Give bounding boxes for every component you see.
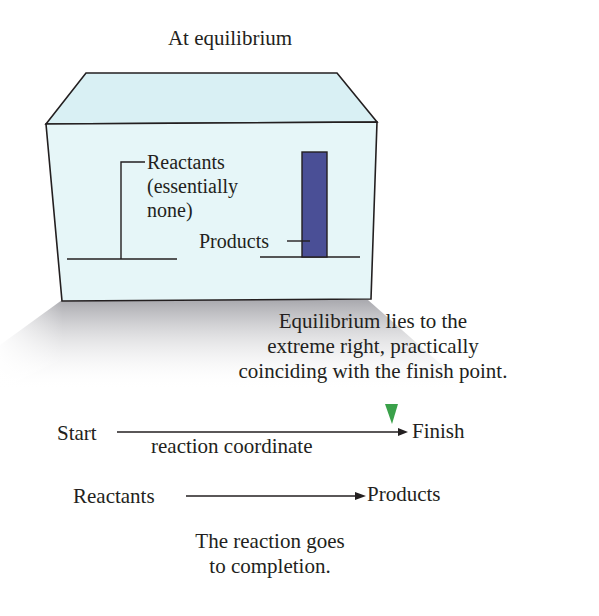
equilibrium-marker-icon <box>385 404 398 424</box>
start-label: Start <box>57 422 97 444</box>
box-top <box>46 73 377 124</box>
reactants-label-line1: Reactants <box>147 151 225 173</box>
reaction-arrowhead <box>355 492 366 500</box>
conclusion-caption: The reaction goes to completion. <box>140 529 400 579</box>
products-bar-label: Products <box>199 230 269 252</box>
reaction-reactants-label: Reactants <box>73 485 155 507</box>
finish-label: Finish <box>412 420 465 442</box>
reactants-label-line3: none) <box>147 199 193 221</box>
reaction-coordinate-arrowhead <box>398 428 408 436</box>
equilibrium-box-illustration <box>0 0 599 616</box>
reactants-label-line2: (essentially <box>147 175 238 197</box>
equilibrium-note-line1: Equilibrium lies to the <box>200 309 546 334</box>
equilibrium-note: Equilibrium lies to the extreme right, p… <box>200 309 546 384</box>
reaction-coordinate-label: reaction coordinate <box>151 435 313 457</box>
conclusion-line2: to completion. <box>140 554 400 579</box>
conclusion-line1: The reaction goes <box>140 529 400 554</box>
equilibrium-note-line3: coinciding with the finish point. <box>200 359 546 384</box>
equilibrium-note-line2: extreme right, practically <box>200 334 546 359</box>
reaction-products-label: Products <box>367 483 441 505</box>
